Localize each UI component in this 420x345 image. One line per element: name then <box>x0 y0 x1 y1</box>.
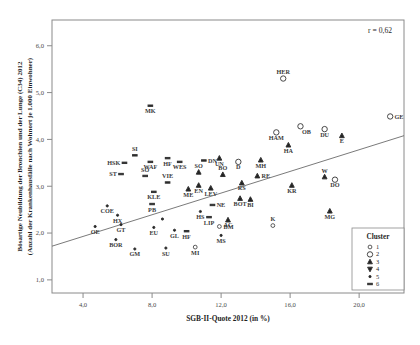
legend-label-2: 2 <box>376 250 379 257</box>
data-point-LIP <box>207 216 212 217</box>
data-point-PB <box>150 203 155 204</box>
point-label-HS: HS <box>196 213 205 220</box>
data-point-HER <box>281 76 286 81</box>
point-label-MK: MK <box>145 107 156 114</box>
point-label-DN: DN <box>208 157 217 164</box>
point-label-OB: OB <box>302 128 311 135</box>
data-point-VIE <box>165 182 170 183</box>
point-label-BI: BI <box>247 201 254 208</box>
plot-canvas: 4,08,012,016,020,01,02,03,04,05,06,0SGB-… <box>0 0 420 345</box>
point-label-HAM: HAM <box>269 134 284 141</box>
data-point-GE <box>387 114 392 119</box>
x-tick-label-0: 4,0 <box>79 301 88 308</box>
point-label-RE: RE <box>262 172 271 179</box>
point-label-RS: RS <box>238 184 246 191</box>
point-label-OE: OE <box>91 228 100 235</box>
legend-label-5: 5 <box>376 273 379 280</box>
point-label-HSK: HSK <box>107 159 120 166</box>
point-label-DU: DU <box>320 131 329 138</box>
data-point-BO <box>220 172 225 177</box>
point-label-MS: MS <box>216 237 226 244</box>
data-point-SI <box>133 155 138 156</box>
legend-marker-5 <box>369 276 371 278</box>
point-label-SO: SO <box>141 166 149 173</box>
point-label-EN: EN <box>194 187 203 194</box>
point-label-ME: ME <box>183 191 193 198</box>
data-point-W <box>322 174 327 179</box>
point-label-HER: HER <box>277 68 291 75</box>
y-tick-label-5: 6,0 <box>36 42 45 49</box>
point-label-ST: ST <box>109 170 117 177</box>
point-label-PB: PB <box>148 206 156 213</box>
data-point-DN <box>202 160 207 161</box>
data-point-ST <box>119 173 124 174</box>
y-axis-title-line2: (Anzahl der Krankenhausfälle nach Wohnor… <box>26 57 34 255</box>
legend-label-1: 1 <box>376 243 379 250</box>
point-label-SO: SO <box>195 162 203 169</box>
point-label-MG: MG <box>324 213 335 220</box>
y-tick-label-4: 5,0 <box>36 89 45 96</box>
correlation-annotation: r = 0,62 <box>368 26 392 35</box>
legend-title: Cluster <box>367 233 391 241</box>
point-label-GT: GT <box>117 226 127 233</box>
point-label-BOT: BOT <box>234 200 248 207</box>
point-label-SU: SU <box>162 250 170 257</box>
x-tick-label-3: 16,0 <box>284 301 296 308</box>
x-axis-title: SGB-II-Quote 2012 (in %) <box>186 314 270 323</box>
point-label-WES: WES <box>173 163 187 170</box>
point-label-HF: HF <box>163 160 172 167</box>
point-label-W: W <box>322 167 329 174</box>
point-label-LEV: LEV <box>204 190 217 197</box>
point-label-BO: BO <box>218 164 227 171</box>
point-label-GM: GM <box>129 250 140 257</box>
data-point-RE <box>255 173 260 178</box>
data-point-WES <box>177 161 182 162</box>
point-label-HA: HA <box>284 147 294 154</box>
data-point-SO <box>143 175 148 176</box>
point-label-D: D <box>236 163 241 170</box>
data-point-SO <box>196 170 201 175</box>
data-point-HF <box>165 157 170 158</box>
data-point-KLE <box>161 218 163 220</box>
legend-label-3: 3 <box>376 258 379 265</box>
legend-label-6: 6 <box>376 280 379 287</box>
y-tick-label-2: 3,0 <box>36 183 45 190</box>
y-tick-label-3: 4,0 <box>36 136 45 143</box>
data-point-BM <box>217 225 221 229</box>
data-point-HSK <box>122 162 127 163</box>
data-point-MK <box>148 105 153 106</box>
point-label-HF: HF <box>182 233 191 240</box>
point-label-COE: COE <box>101 207 114 214</box>
x-tick-label-4: 20,0 <box>353 301 365 308</box>
data-point-KLE <box>152 191 157 192</box>
plot-frame <box>52 20 404 293</box>
data-point-NE <box>210 204 215 205</box>
point-label-LIP: LIP <box>204 219 215 226</box>
point-label-DO: DO <box>330 181 339 188</box>
point-label-MH: MH <box>255 162 266 169</box>
point-label-GE: GE <box>394 113 403 120</box>
y-tick-label-1: 2,0 <box>36 229 45 236</box>
point-label-VIE: VIE <box>162 172 173 179</box>
point-label-BOR: BOR <box>109 241 123 248</box>
point-label-E: E <box>340 137 344 144</box>
point-label-MI: MI <box>191 249 200 256</box>
data-point-WAF <box>148 161 153 162</box>
point-label-GL: GL <box>170 232 179 239</box>
point-label-BM: BM <box>224 223 234 230</box>
x-tick-label-2: 12,0 <box>215 301 227 308</box>
data-point-K <box>271 224 275 228</box>
data-point-HF <box>184 230 189 231</box>
point-label-NE: NE <box>217 201 226 208</box>
point-label-SI: SI <box>132 145 138 152</box>
y-tick-label-0: 1,0 <box>36 276 45 283</box>
point-label-KLE: KLE <box>147 193 160 200</box>
point-label-EU: EU <box>149 229 158 236</box>
point-label-KR: KR <box>287 187 297 194</box>
point-label-HX: HX <box>113 217 123 224</box>
x-tick-label-1: 8,0 <box>148 301 157 308</box>
legend-marker-6 <box>368 283 373 284</box>
point-label-K: K <box>270 215 275 222</box>
y-axis-title-line1: Bösartige Neubildung der Bronchien und d… <box>16 61 24 251</box>
scatter-plot-figure: 4,08,012,016,020,01,02,03,04,05,06,0SGB-… <box>0 0 420 345</box>
